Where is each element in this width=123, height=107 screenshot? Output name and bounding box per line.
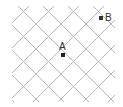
point-a-label: A xyxy=(59,42,66,52)
point-a-marker xyxy=(61,53,65,57)
point-b-label: B xyxy=(105,13,112,23)
point-b-marker xyxy=(99,16,103,20)
